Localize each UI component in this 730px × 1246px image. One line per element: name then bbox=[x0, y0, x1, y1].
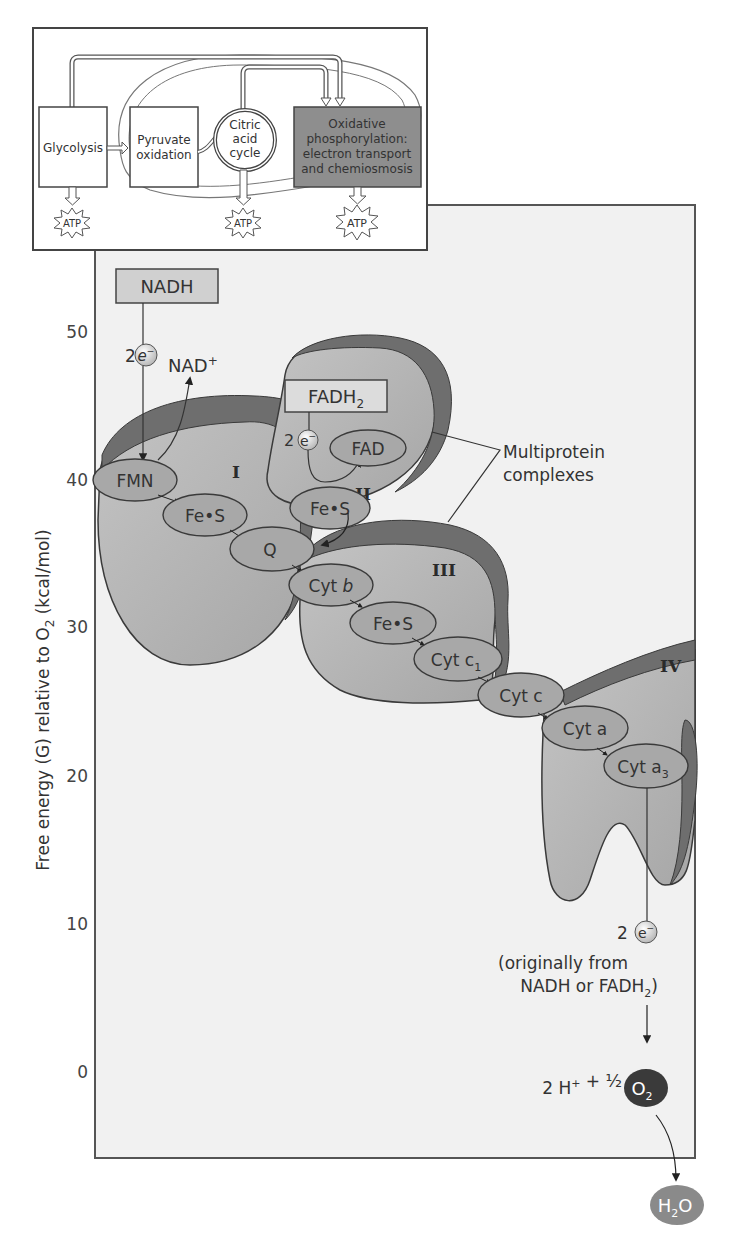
y-axis-label: Free energy (G) relative to O2 (kcal/mol… bbox=[33, 529, 57, 870]
stage-pyruvate-oxidation bbox=[130, 107, 198, 187]
svg-text:FAD: FAD bbox=[352, 439, 385, 459]
svg-text:Oxidative: Oxidative bbox=[328, 117, 385, 131]
carrier-fes-2: Fe•S bbox=[290, 487, 370, 529]
carrier-fes-1: Fe•S bbox=[163, 494, 247, 536]
carrier-cyt-a: Cyt a bbox=[542, 706, 628, 750]
callout-line1: Multiprotein bbox=[503, 442, 605, 462]
tick-0: 0 bbox=[77, 1062, 88, 1082]
svg-text:oxidation: oxidation bbox=[136, 148, 191, 162]
electron-transport-diagram: 50 40 30 20 10 0 Free energy (G) relativ… bbox=[0, 0, 730, 1246]
carrier-fes-3: Fe•S bbox=[350, 602, 436, 644]
svg-text:Fe•S: Fe•S bbox=[185, 506, 225, 526]
complex-IV-label: IV bbox=[660, 656, 682, 676]
svg-text:Cyt c: Cyt c bbox=[499, 686, 542, 706]
svg-text:Cyt a: Cyt a bbox=[563, 719, 607, 739]
tick-40: 40 bbox=[66, 470, 88, 490]
svg-text:phosphorylation:: phosphorylation: bbox=[306, 132, 407, 146]
svg-text:Pyruvate: Pyruvate bbox=[137, 133, 190, 147]
carrier-cyt-c1: Cyt c1 bbox=[414, 637, 502, 681]
svg-text:Q: Q bbox=[263, 540, 276, 560]
svg-text:Fe•S: Fe•S bbox=[373, 614, 413, 634]
svg-text:ATP: ATP bbox=[347, 217, 367, 230]
svg-text:Fe•S: Fe•S bbox=[310, 499, 350, 519]
svg-text:Citric: Citric bbox=[229, 118, 260, 132]
carrier-q: Q bbox=[230, 527, 314, 571]
carrier-cyt-c: Cyt c bbox=[478, 673, 564, 717]
y-axis-ticks: 50 40 30 20 10 0 bbox=[66, 322, 88, 1082]
svg-text:Cyt b: Cyt b bbox=[309, 576, 354, 596]
complex-I-label: I bbox=[232, 462, 240, 482]
svg-text:acid: acid bbox=[233, 132, 258, 146]
electron-count-final: 2 bbox=[617, 923, 628, 943]
electron-count-fadh2: 2 bbox=[284, 431, 294, 450]
tick-20: 20 bbox=[66, 766, 88, 786]
svg-text:electron transport: electron transport bbox=[303, 147, 412, 161]
svg-text:Glycolysis: Glycolysis bbox=[43, 141, 103, 155]
tick-50: 50 bbox=[66, 322, 88, 342]
carrier-fmn: FMN bbox=[93, 459, 177, 501]
origin-line1: (originally from bbox=[498, 953, 628, 973]
electron-count-nadh: 2 bbox=[125, 346, 136, 366]
carrier-cyt-b: Cyt b bbox=[289, 564, 373, 606]
complex-III-label: III bbox=[432, 560, 456, 580]
tick-30: 30 bbox=[66, 617, 88, 637]
callout-line2: complexes bbox=[503, 465, 594, 485]
svg-text:cycle: cycle bbox=[229, 146, 260, 160]
stage-citric-acid-cycle: Citric acid cycle bbox=[215, 110, 275, 170]
svg-text:FMN: FMN bbox=[116, 471, 153, 491]
nadh-label: NADH bbox=[140, 276, 193, 297]
svg-text:and chemiosmosis: and chemiosmosis bbox=[301, 162, 412, 176]
carrier-cyt-a3: Cyt a3 bbox=[604, 744, 688, 788]
tick-10: 10 bbox=[66, 914, 88, 934]
svg-text:ATP: ATP bbox=[234, 218, 252, 229]
svg-text:ATP: ATP bbox=[63, 218, 81, 229]
